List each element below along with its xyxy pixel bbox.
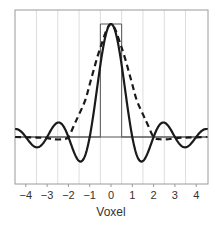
x-tick-label: 1 — [129, 189, 135, 201]
x-tick-label: −2 — [62, 189, 75, 201]
x-tick-label: 4 — [193, 189, 199, 201]
x-tick-label: −1 — [83, 189, 96, 201]
plot-frame — [15, 10, 208, 184]
sinc-line — [15, 24, 208, 162]
x-axis-ticks: −4−3−2−101234 — [20, 184, 200, 201]
x-axis-label: Voxel — [96, 205, 125, 219]
x-tick-label: −3 — [41, 189, 54, 201]
x-tick-label: −4 — [20, 189, 33, 201]
rect-function-line — [15, 24, 208, 137]
x-tick-label: 3 — [172, 189, 178, 201]
chart: −4−3−2−101234 Voxel — [0, 0, 219, 225]
x-tick-label: 2 — [151, 189, 157, 201]
dashed-kernel-line — [15, 24, 207, 139]
vertical-gridlines — [36, 10, 185, 184]
x-tick-label: 0 — [108, 189, 114, 201]
